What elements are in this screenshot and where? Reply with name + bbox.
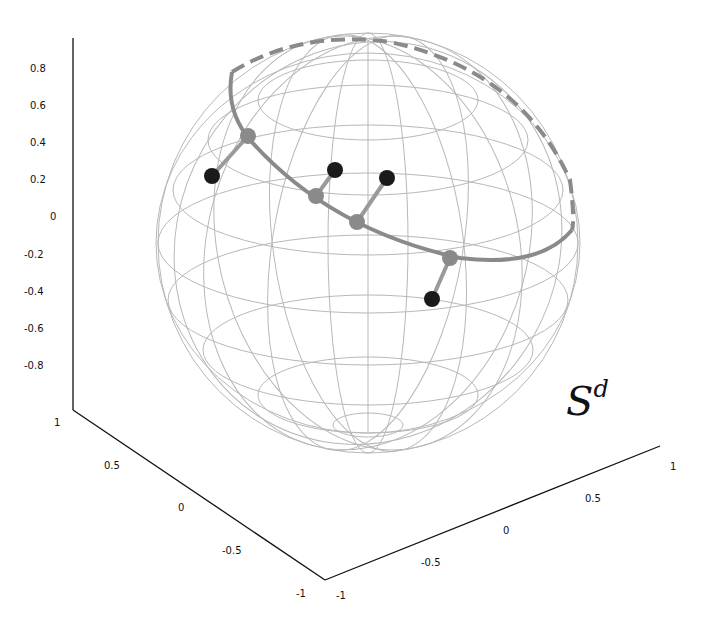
svg-text:-0.4: -0.4 [24,286,44,297]
svg-text:-1: -1 [336,590,346,601]
svg-text:0.4: 0.4 [30,137,46,148]
axes [73,38,660,580]
svg-text:-0.5: -0.5 [222,545,242,556]
svg-text:-0.5: -0.5 [421,557,441,568]
y-ticks: 1 0.5 0 -0.5 -1 [54,417,306,599]
svg-text:-1: -1 [296,588,306,599]
sphere-wireframe [101,0,635,516]
svg-text:0: 0 [178,502,184,513]
svg-text:1: 1 [670,461,676,472]
x-ticks: -1 -0.5 0 0.5 1 [336,461,676,601]
plot-canvas: 0.8 0.6 0.4 0.2 0 -0.2 -0.4 -0.6 -0.8 1 … [0,0,706,628]
svg-text:0: 0 [50,211,56,222]
svg-text:0.6: 0.6 [30,100,46,111]
svg-text:-0.6: -0.6 [24,323,44,334]
svg-text:0.5: 0.5 [104,460,120,471]
manifold-label: Sd [566,378,609,424]
svg-text:-0.2: -0.2 [24,249,44,260]
svg-text:1: 1 [54,417,60,428]
svg-text:-0.8: -0.8 [24,360,44,371]
svg-text:0: 0 [503,525,509,536]
z-ticks: 0.8 0.6 0.4 0.2 0 -0.2 -0.4 -0.6 -0.8 [24,63,56,371]
svg-text:0.2: 0.2 [30,174,46,185]
sphere-figure: 0.8 0.6 0.4 0.2 0 -0.2 -0.4 -0.6 -0.8 1 … [0,0,706,628]
svg-text:0.5: 0.5 [585,493,601,504]
data-points [204,162,440,307]
svg-text:0.8: 0.8 [30,63,46,74]
